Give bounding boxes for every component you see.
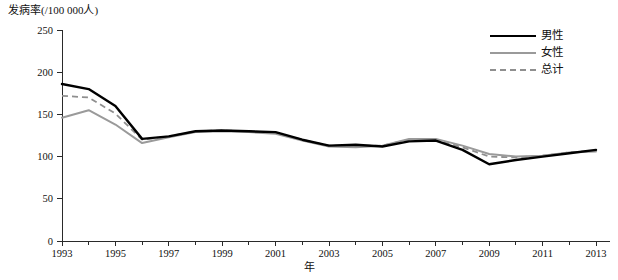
legend-label-female: 女性 [541, 45, 563, 59]
svg-text:150: 150 [37, 109, 53, 120]
series-line-female [62, 110, 596, 156]
legend-item-total: 总计 [490, 60, 563, 77]
y-axis-ticks: 050100150200250 [37, 25, 62, 247]
svg-text:250: 250 [37, 25, 53, 36]
svg-text:100: 100 [37, 151, 53, 162]
chart-legend: 男性 女性 总计 [490, 26, 563, 77]
series-line-total [62, 96, 596, 158]
svg-text:0: 0 [48, 236, 53, 247]
svg-text:200: 200 [37, 67, 53, 78]
legend-swatch-total-icon [490, 64, 536, 74]
incidence-rate-line-chart: 发病率(/100 000人) 050100150200250 199319951… [0, 0, 618, 280]
legend-item-male: 男性 [490, 26, 563, 43]
legend-item-female: 女性 [490, 43, 563, 60]
legend-label-male: 男性 [541, 28, 563, 42]
svg-text:50: 50 [43, 193, 54, 204]
x-axis-title: 年 [0, 258, 618, 274]
legend-swatch-male-icon [490, 30, 536, 40]
legend-swatch-female-icon [490, 47, 536, 57]
series-line-male [62, 84, 596, 164]
legend-label-total: 总计 [541, 62, 563, 76]
x-axis-ticks: 1993199519971999200120032005200720092011… [52, 241, 607, 259]
